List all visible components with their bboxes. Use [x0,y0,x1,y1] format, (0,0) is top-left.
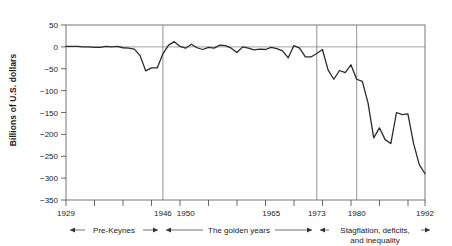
x-tick-label: 1929 [57,209,75,218]
era-label-stagflation-line2: and inequality [350,236,399,245]
y-tick-label: 50 [49,21,58,30]
chart-figure: Billions of U.S. dollars 5 [0,0,452,246]
y-tick-marks [61,25,66,200]
y-tick-labels: 50 0 −50 −100 −150 −200 −250 −300 −350 [40,21,59,205]
y-tick-label: −300 [40,174,59,183]
era-annotation-golden-years: The golden years [166,224,312,236]
y-tick-label: −100 [40,87,59,96]
y-tick-label: −50 [44,65,58,74]
arrow-left-icon [166,228,171,233]
era-label-golden-years: The golden years [208,226,270,235]
chart-plot-area: 50 0 −50 −100 −150 −200 −250 −300 −350 [0,0,452,246]
era-label-pre-keynes: Pre-Keynes [93,226,135,235]
y-tick-label: −200 [40,130,59,139]
x-tick-label: 1980 [348,209,366,218]
x-tick-label: 1992 [416,209,434,218]
y-tick-label: −150 [40,109,59,118]
x-tick-label: 1973 [308,209,326,218]
y-tick-label: −250 [40,152,59,161]
arrow-right-icon [425,228,430,233]
x-tick-label: 1950 [177,209,195,218]
x-tick-label: 1946 [154,209,172,218]
arrow-left-icon [70,228,75,233]
x-tick-label: 1965 [262,209,280,218]
era-separator-gridlines [163,25,357,200]
arrow-left-icon [320,228,325,233]
arrow-right-icon [153,228,158,233]
data-series-line [66,42,425,174]
y-tick-label: −350 [40,196,59,205]
x-tick-marks [66,200,425,206]
era-annotation-pre-keynes: Pre-Keynes [70,224,158,236]
y-tick-label: 0 [54,43,59,52]
x-tick-labels: 1929 1946 1950 1965 1973 1980 1992 [57,209,434,218]
era-annotation-stagflation: Stagflation, deficits, and inequality [320,224,430,245]
arrow-right-icon [307,228,312,233]
era-label-stagflation-line1: Stagflation, deficits, [340,226,409,235]
plot-frame [66,25,425,200]
